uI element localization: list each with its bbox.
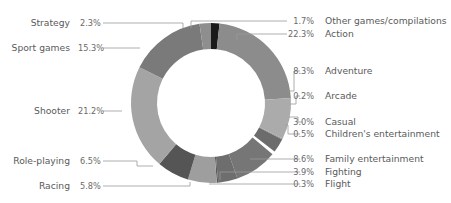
pct-sport-games: 15.3% — [78, 43, 104, 53]
label-family: Family entertainment — [325, 153, 424, 164]
pct-flight: 0.3% — [293, 179, 314, 189]
donut-svg: 1.7% Other games/compilations 22.3% Acti… — [0, 0, 451, 203]
label-shooter: Shooter — [34, 105, 70, 116]
label-sport-games: Sport games — [12, 42, 71, 53]
leader-role-playing — [103, 161, 153, 166]
label-racing: Racing — [39, 180, 70, 191]
slice-action — [217, 23, 291, 99]
pct-shooter: 21.2% — [78, 106, 104, 116]
pct-casual: 3.0% — [293, 117, 314, 127]
label-flight: Flight — [325, 178, 351, 189]
label-fighting: Fighting — [325, 166, 362, 177]
slice-shooter — [131, 67, 176, 164]
chart-title — [60, 0, 320, 3]
label-strategy: Strategy — [31, 17, 71, 28]
legend-right: 1.7% Other games/compilations 22.3% Acti… — [288, 15, 447, 189]
label-arcade: Arcade — [325, 90, 357, 101]
pct-childrens: 0.5% — [293, 129, 314, 139]
pct-action: 22.3% — [288, 29, 314, 39]
pct-arcade: 0.2% — [293, 91, 314, 101]
pct-racing: 5.8% — [80, 181, 101, 191]
pct-family: 8.6% — [293, 154, 314, 164]
legend-left: Strategy 2.3% Sport games 15.3% Shooter … — [12, 17, 105, 191]
pct-fighting: 3.9% — [293, 167, 314, 177]
label-adventure: Adventure — [325, 65, 373, 76]
label-childrens: Children's entertainment — [325, 128, 440, 139]
label-role-playing: Role-playing — [13, 155, 70, 166]
pct-role-playing: 6.5% — [80, 156, 101, 166]
slice-sport-games — [139, 24, 203, 79]
label-action: Action — [325, 28, 354, 39]
pct-adventure: 8.3% — [293, 66, 314, 76]
donut-chart: 1.7% Other games/compilations 22.3% Acti… — [0, 0, 451, 203]
leader-racing — [103, 182, 190, 186]
pct-strategy: 2.3% — [80, 18, 101, 28]
label-other-games: Other games/compilations — [325, 15, 447, 26]
pct-other-games: 1.7% — [293, 16, 314, 26]
leader-strategy — [103, 23, 183, 28]
label-casual: Casual — [325, 116, 356, 127]
